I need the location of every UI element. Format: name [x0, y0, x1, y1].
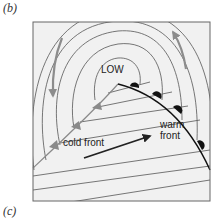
panel-label-c: (c)	[3, 204, 16, 219]
low-label: LOW	[101, 64, 124, 75]
cold-front-label: cold front	[63, 137, 104, 148]
diagram-background	[33, 22, 210, 201]
warm-front-label-line2: front	[160, 130, 180, 141]
cyclone-diagram: LOW cold front warm front	[0, 0, 220, 220]
warm-front-label-line1: warm	[159, 119, 184, 130]
